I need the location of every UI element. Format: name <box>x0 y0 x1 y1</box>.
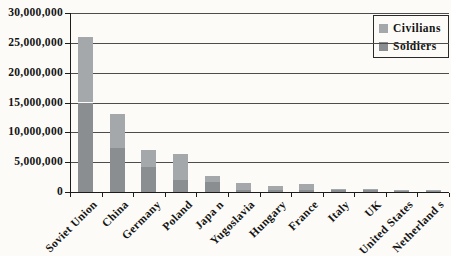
bar-civilians-segment <box>173 154 188 180</box>
bar-soldiers-segment <box>394 190 409 192</box>
x-category-label: Poland <box>159 198 194 233</box>
bar-soldiers-segment <box>205 182 220 192</box>
legend-entry-soldiers: Soldiers <box>379 37 448 55</box>
x-axis-line <box>65 192 449 193</box>
x-axis-tick <box>323 193 324 197</box>
bar-civilians-segment <box>394 190 409 191</box>
y-tick-label: 20,000,000 <box>1 66 63 78</box>
x-axis-tick <box>70 193 71 197</box>
bar-soldiers-segment <box>78 103 93 193</box>
bar-soldiers-segment <box>331 190 346 192</box>
bar-civilians-segment <box>78 37 93 103</box>
y-tick-label: 10,000,000 <box>1 125 63 137</box>
bar-civilians-segment <box>205 176 220 182</box>
x-axis-tick <box>260 193 261 197</box>
bar-soldiers-segment <box>299 190 314 192</box>
x-axis-tick <box>449 193 450 197</box>
gridline <box>70 162 449 163</box>
x-axis-tick <box>417 193 418 197</box>
x-axis-tick <box>196 193 197 197</box>
bar-soldiers-segment <box>141 167 156 192</box>
x-axis-tick <box>228 193 229 197</box>
y-tick-label: 15,000,000 <box>1 96 63 108</box>
x-axis-tick <box>165 193 166 197</box>
x-axis-tick <box>133 193 134 197</box>
x-axis-tick <box>354 193 355 197</box>
y-tick-label: 5,000,000 <box>1 155 63 167</box>
x-axis-tick <box>291 193 292 197</box>
bar-civilians-segment <box>141 150 156 167</box>
gridline <box>70 13 449 14</box>
x-category-label: Soviet Union <box>43 198 99 254</box>
x-category-label: UK <box>362 198 383 219</box>
bar-civilians-segment <box>363 189 378 190</box>
gridline <box>70 43 449 44</box>
bar-civilians-segment <box>331 189 346 190</box>
y-tick-label: 30,000,000 <box>1 6 63 18</box>
x-category-label: Italy <box>326 198 352 224</box>
legend-civilians-label: Civilians <box>393 22 441 34</box>
gridline <box>70 73 449 74</box>
legend-soldiers-label: Soldiers <box>393 40 437 52</box>
y-tick-label: 25,000,000 <box>1 36 63 48</box>
civilians-swatch-icon <box>379 24 388 33</box>
bar-soldiers-segment <box>173 180 188 192</box>
bar-soldiers-segment <box>426 191 441 192</box>
bar-soldiers-segment <box>236 190 251 192</box>
x-axis-tick <box>102 193 103 197</box>
bar-civilians-segment <box>299 184 314 190</box>
bar-civilians-segment <box>236 183 251 189</box>
x-axis-tick <box>386 193 387 197</box>
x-category-label: France <box>286 198 321 233</box>
gridline <box>70 132 449 133</box>
legend-entry-civilians: Civilians <box>379 19 448 37</box>
y-tick-label: 0 <box>1 185 63 197</box>
bar-civilians-segment <box>426 190 441 191</box>
bar-soldiers-segment <box>363 190 378 192</box>
bar-civilians-segment <box>268 186 283 190</box>
bar-civilians-segment <box>110 114 125 147</box>
gridline <box>70 103 449 104</box>
chart-legend: Civilians Soldiers <box>373 15 449 58</box>
bar-soldiers-segment <box>268 190 283 192</box>
y-axis-line <box>70 13 71 192</box>
bar-soldiers-segment <box>110 148 125 192</box>
